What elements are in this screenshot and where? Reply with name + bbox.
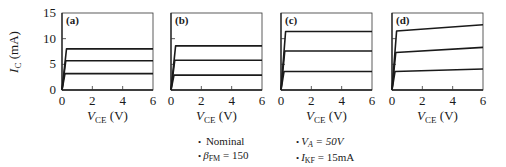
x-axis-label-unit: (V): [107, 108, 128, 123]
panel-d: 0246(d)VCE (V): [389, 13, 487, 125]
legend-item-va: •VA = 50V: [296, 135, 354, 151]
series-line-curve-1: [62, 49, 153, 90]
legend-text: Nominal: [206, 135, 245, 147]
series-line-curve-3: [392, 69, 483, 90]
panel-label: (d): [396, 14, 410, 27]
x-tick-label: 6: [369, 93, 376, 108]
x-axis-label-unit: (V): [326, 108, 347, 123]
legend-value: = 150: [220, 149, 248, 161]
series-line-curve-3: [281, 72, 372, 91]
legend-item-ikf: •IKF = 15mA: [296, 151, 354, 167]
series-line-curve-3: [62, 74, 153, 90]
x-tick-label: 6: [259, 93, 266, 108]
series-line-curve-1: [281, 32, 372, 91]
x-axis-label-sub: CE: [314, 115, 326, 125]
panel-a: 0246051015(a)VCE (V): [43, 5, 157, 125]
series-line-curve-1: [392, 25, 483, 90]
x-tick-label: 2: [198, 93, 205, 108]
x-axis-label: VCE (V): [417, 108, 458, 125]
y-axis-label-text: IC (mA): [6, 31, 23, 74]
panel-label: (c): [285, 14, 298, 27]
x-axis-label: VCE (V): [196, 108, 237, 125]
legend-symbol: V: [301, 135, 308, 147]
legend-subscript: KF: [305, 156, 315, 165]
x-axis-label-sub: CE: [95, 115, 107, 125]
x-tick-label: 4: [338, 93, 345, 108]
panel-label: (a): [66, 14, 79, 27]
x-tick-label: 0: [168, 93, 175, 108]
legend-item-nominal: • Nominal: [198, 135, 248, 149]
panel-label: (b): [175, 14, 189, 27]
x-tick-label: 2: [419, 93, 426, 108]
series-line-curve-1: [171, 46, 262, 90]
y-axis-label-unit: (mA): [6, 31, 21, 62]
x-tick-label: 4: [119, 93, 126, 108]
legend-column-2: •VA = 50V •IKF = 15mA: [296, 135, 354, 167]
x-tick-label: 4: [449, 93, 456, 108]
legend-value: = 50V: [313, 135, 344, 147]
series-line-curve-2: [281, 51, 372, 90]
x-axis-label: VCE (V): [87, 108, 128, 125]
x-tick-label: 4: [228, 93, 235, 108]
x-tick-label: 2: [89, 93, 96, 108]
y-tick-label: 0: [50, 82, 57, 97]
legend-bullet: •: [296, 137, 299, 147]
legend-bullet: •: [198, 137, 201, 147]
legend-value: = 15mA: [315, 151, 354, 163]
panel-b: 0246(b)VCE (V): [168, 13, 266, 125]
y-tick-label: 5: [50, 56, 57, 71]
legend-subscript: FM: [209, 154, 221, 163]
x-axis-label-unit: (V): [216, 108, 237, 123]
x-axis-label-unit: (V): [437, 108, 458, 123]
y-tick-label: 15: [43, 5, 56, 20]
x-axis-label-sub: CE: [425, 115, 437, 125]
x-tick-label: 6: [150, 93, 157, 108]
legend-bullet: •: [296, 153, 299, 163]
y-tick-label: 10: [43, 31, 56, 46]
x-axis-label-sub: CE: [204, 115, 216, 125]
x-tick-label: 0: [59, 93, 66, 108]
panel-c: 0246(c)VCE (V): [278, 13, 376, 125]
x-tick-label: 0: [278, 93, 285, 108]
legend-item-beta-fm: •βFM = 150: [198, 149, 248, 165]
x-tick-label: 2: [308, 93, 315, 108]
x-axis-label: VCE (V): [306, 108, 347, 125]
y-axis-label: IC (mA): [6, 31, 23, 74]
series-line-curve-3: [171, 75, 262, 90]
legend-column-1: • Nominal •βFM = 150: [198, 135, 248, 165]
figure: IC (mA) 0246051015(a)VCE (V)0246(b)VCE (…: [0, 0, 506, 167]
x-tick-label: 6: [480, 93, 487, 108]
legend-bullet: •: [198, 151, 201, 161]
series-line-curve-2: [62, 61, 153, 90]
x-tick-label: 0: [389, 93, 396, 108]
